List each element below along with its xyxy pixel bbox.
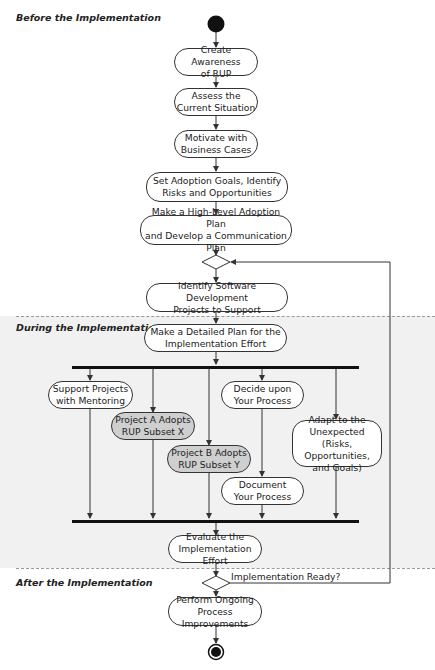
node-motivate: Motivate with Business Cases	[174, 130, 258, 158]
decision-diamond-1	[202, 255, 230, 269]
join-bar	[72, 520, 359, 523]
fork-bar	[72, 366, 359, 369]
start-node	[208, 16, 225, 33]
node-assess: Assess the Current Situation	[174, 88, 258, 116]
node-project-a: Project A Adopts RUP Subset X	[111, 412, 195, 440]
node-identify-projects: Identify Software Development Projects t…	[146, 283, 288, 312]
node-set-goals: Set Adoption Goals, Identify Risks and O…	[146, 172, 288, 202]
node-support-projects: Support Projects with Mentoring	[48, 381, 133, 409]
decision-diamond-2	[202, 576, 230, 590]
decision-label: Implementation Ready?	[231, 571, 340, 582]
node-detailed-plan: Make a Detailed Plan for the Implementat…	[144, 324, 287, 352]
node-ongoing-improvements: Perform Ongoing Process Improvements	[168, 597, 262, 626]
node-project-b: Project B Adopts RUP Subset Y	[167, 445, 251, 473]
node-adapt: Adapt to the Unexpected (Risks, Opportun…	[292, 420, 382, 467]
node-decide-process: Decide upon Your Process	[221, 381, 304, 409]
node-high-level-plan: Make a High-Level Adoption Plan and Deve…	[140, 215, 292, 245]
node-evaluate: Evaluate the Implementation Effort	[168, 535, 262, 563]
node-create-awareness: Create Awareness of RUP	[174, 48, 258, 76]
node-document-process: Document Your Process	[221, 477, 304, 505]
end-node-inner	[211, 647, 221, 657]
